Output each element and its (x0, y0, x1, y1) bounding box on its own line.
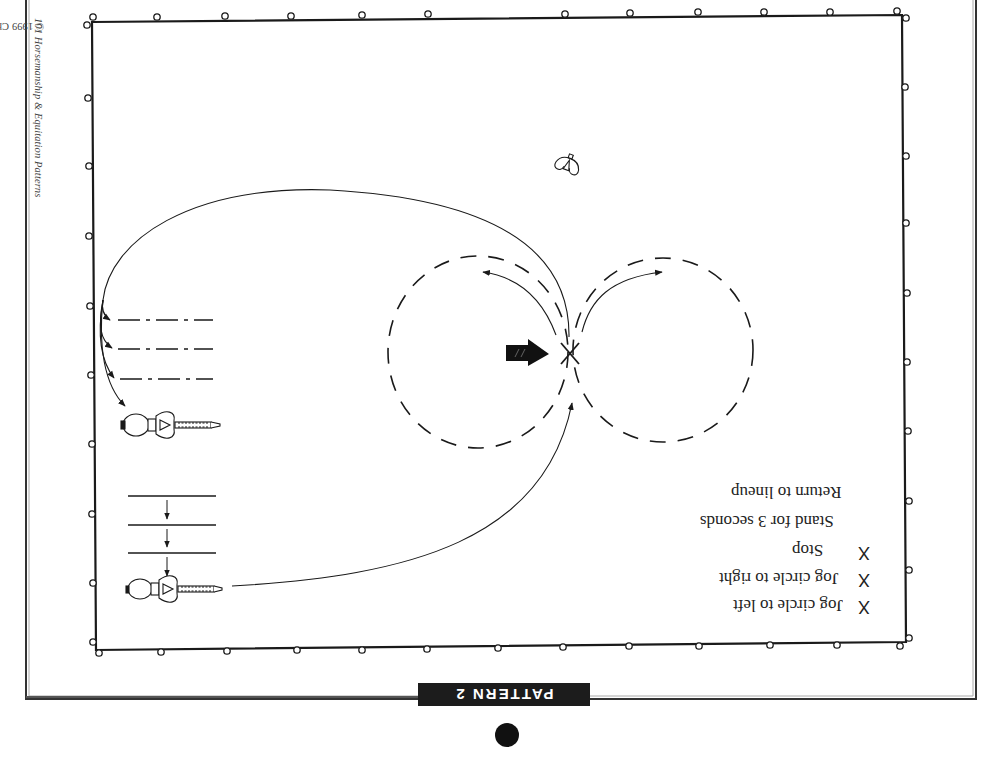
instruction-text: Stop (792, 540, 823, 560)
book-title: 101 Horsemanship & Equitation Patterns (33, 18, 44, 197)
arena-diagram (0, 0, 1008, 775)
fence-posts (84, 8, 912, 656)
x-mark-icon: X (858, 596, 870, 617)
start-arrow-icon (506, 339, 549, 366)
instruction-text: Jog circle to left (733, 595, 843, 615)
copyright-prefix: © 1999 Cherry Hill (0, 21, 44, 32)
instruction-text: Jog circle to right (719, 568, 838, 588)
judge-icon (554, 150, 583, 176)
horse-rider-icon (126, 576, 222, 602)
page-bullet-icon (495, 723, 519, 747)
pattern-label: PATTERN 2 (418, 683, 590, 706)
approach-route (232, 403, 572, 586)
pattern-page: © 1999 Cherry Hill 101 Horsemanship & Eq… (0, 0, 1008, 775)
instruction-text: Return to lineup (731, 482, 841, 502)
x-mark-icon: X (858, 569, 870, 590)
x-mark-icon: X (858, 542, 870, 563)
copyright-notice: © 1999 Cherry Hill 101 Horsemanship & Eq… (30, 18, 44, 258)
horse-rider-icon (121, 412, 220, 438)
direction-arrows (483, 272, 662, 335)
x-marker-icon (561, 343, 579, 364)
start-lineup-lines (128, 496, 216, 553)
return-lineup-lines (118, 320, 213, 379)
right-circle (573, 258, 753, 442)
arena-fence (84, 8, 912, 656)
return-route (100, 190, 569, 406)
instruction-text: Stand for 3 seconds (700, 511, 834, 531)
